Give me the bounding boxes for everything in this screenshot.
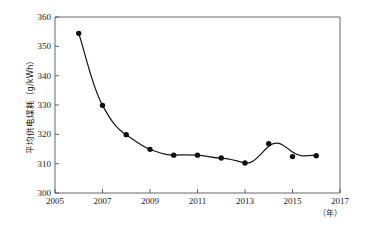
x-tick-label: 2015 [284, 196, 303, 206]
x-axis-tick-labels: 2005 2007 2009 2011 2013 2015 2017 [46, 196, 350, 206]
data-point [100, 103, 105, 108]
y-tick-label: 320 [38, 129, 52, 139]
data-point [219, 155, 224, 160]
x-tick-label: 2007 [94, 196, 113, 206]
x-tick-label: 2017 [331, 196, 350, 206]
line-chart: 300 310 320 330 340 350 360 2005 2007 20… [0, 0, 367, 232]
x-tick-label: 2009 [141, 196, 160, 206]
chart-figure: 300 310 320 330 340 350 360 2005 2007 20… [0, 0, 367, 232]
data-point [147, 147, 152, 152]
y-axis-title: 平均供电煤耗（g/kWh） [25, 56, 35, 155]
data-point [314, 153, 319, 158]
x-tick-label: 2011 [189, 196, 207, 206]
x-tick-label: 2013 [236, 196, 255, 206]
data-point [266, 141, 271, 146]
data-series-line [79, 33, 317, 163]
x-axis-ticks [55, 189, 340, 193]
data-point [290, 154, 295, 159]
data-point [195, 152, 200, 157]
y-tick-label: 310 [38, 159, 52, 169]
data-point [171, 152, 176, 157]
data-point [124, 132, 129, 137]
y-tick-label: 350 [38, 41, 52, 51]
y-tick-label: 340 [38, 71, 52, 81]
y-tick-label: 330 [38, 100, 52, 110]
data-point [242, 160, 247, 165]
data-point [76, 31, 81, 36]
x-axis-unit-label: （年） [318, 208, 342, 218]
y-axis-ticks [55, 17, 59, 193]
y-tick-label: 360 [38, 12, 52, 22]
x-tick-label: 2005 [46, 196, 65, 206]
y-axis-tick-labels: 300 310 320 330 340 350 360 [38, 12, 52, 198]
